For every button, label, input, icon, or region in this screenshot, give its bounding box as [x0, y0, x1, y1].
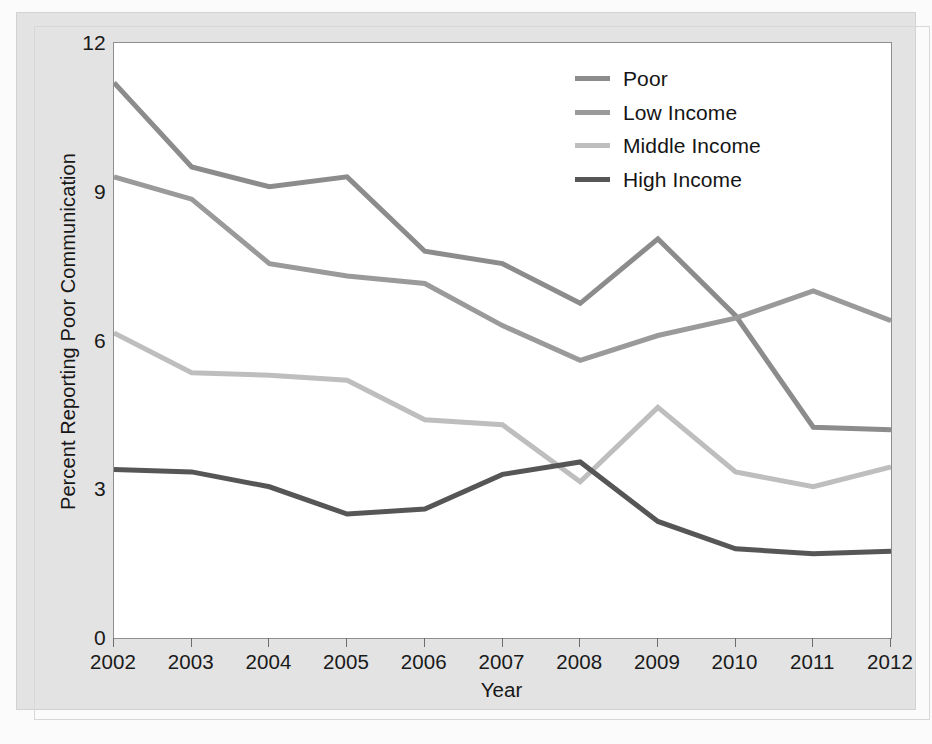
- legend-item[interactable]: Low Income: [575, 96, 825, 130]
- legend-item-label: Middle Income: [623, 135, 761, 156]
- figure: Percent Reporting Poor Communication 036…: [0, 0, 932, 744]
- x-axis-title: Year: [113, 678, 890, 702]
- x-axis-tick-mark: [424, 638, 425, 647]
- series-line: [114, 333, 891, 487]
- legend-line-icon: [575, 76, 610, 81]
- series-line: [114, 462, 891, 554]
- x-axis-tick-label: 2002: [76, 650, 150, 674]
- y-axis-tick-label: 0: [54, 627, 106, 648]
- x-axis-tick-mark: [735, 638, 736, 647]
- x-axis-tick-label: 2006: [387, 650, 461, 674]
- x-axis-tick-mark: [113, 638, 114, 647]
- y-axis-ticks: 036912: [40, 42, 106, 637]
- y-axis-tick-label: 3: [54, 478, 106, 499]
- legend-line-icon: [575, 110, 610, 115]
- legend-line-icon: [575, 143, 610, 148]
- x-axis-tick-mark: [346, 638, 347, 647]
- x-axis-tick-label: 2008: [542, 650, 616, 674]
- y-axis-tick-label: 12: [54, 32, 106, 53]
- legend-line-icon: [575, 177, 610, 182]
- x-axis-tick-mark: [268, 638, 269, 647]
- x-axis-tick-label: 2007: [465, 650, 539, 674]
- series-line: [114, 177, 891, 360]
- x-axis-tick-mark: [502, 638, 503, 647]
- x-axis-tick-mark: [812, 638, 813, 647]
- legend-item[interactable]: Poor: [575, 62, 825, 96]
- x-axis-tick-label: 2012: [853, 650, 927, 674]
- x-axis-tick-label: 2003: [154, 650, 228, 674]
- legend-item-label: Poor: [623, 68, 668, 89]
- x-axis-tick-label: 2011: [775, 650, 849, 674]
- legend: PoorLow IncomeMiddle IncomeHigh Income: [575, 62, 825, 196]
- legend-item-label: High Income: [623, 169, 742, 190]
- legend-item[interactable]: Middle Income: [575, 129, 825, 163]
- x-axis-tick-label: 2005: [309, 650, 383, 674]
- y-axis-tick-label: 9: [54, 181, 106, 202]
- x-axis-ticks: 2002200320042005200620072008200920102011…: [113, 638, 892, 678]
- x-axis-tick-mark: [191, 638, 192, 647]
- y-axis-tick-label: 6: [54, 330, 106, 351]
- legend-item-label: Low Income: [623, 102, 737, 123]
- x-axis-tick-mark: [579, 638, 580, 647]
- x-axis-tick-label: 2004: [231, 650, 305, 674]
- x-axis-tick-label: 2010: [698, 650, 772, 674]
- x-axis-tick-label: 2009: [620, 650, 694, 674]
- x-axis-tick-mark: [657, 638, 658, 647]
- x-axis-tick-mark: [890, 638, 891, 647]
- legend-item[interactable]: High Income: [575, 163, 825, 197]
